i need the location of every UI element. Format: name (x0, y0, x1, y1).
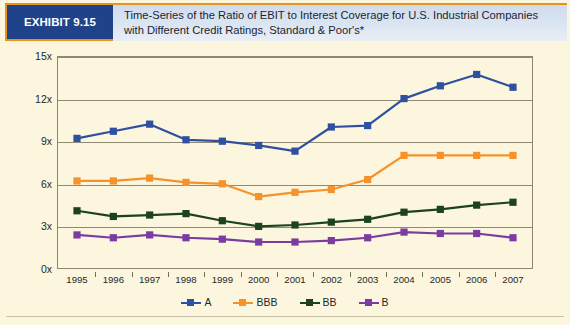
data-point-B-2006 (473, 230, 480, 237)
data-point-A-1995 (73, 135, 80, 142)
data-point-BBB-2006 (473, 152, 480, 159)
exhibit-title-line-1: Time-Series of the Ratio of EBIT to Inte… (124, 8, 559, 23)
x-tick-label-1997: 1997 (139, 274, 160, 285)
x-tick-mark (459, 272, 460, 277)
x-tick-mark (495, 272, 496, 277)
footer-divider (6, 316, 564, 317)
x-tick-mark (95, 272, 96, 277)
data-point-BBB-2001 (291, 189, 298, 196)
data-point-A-2006 (473, 71, 480, 78)
data-point-BBB-1999 (219, 180, 226, 187)
chart-legend: ABBBBBB (0, 292, 570, 312)
data-point-BB-2003 (364, 216, 371, 223)
exhibit-number-label: EXHIBIT 9.15 (24, 16, 96, 28)
data-point-A-2003 (364, 122, 371, 129)
legend-swatch-BB-icon (300, 298, 320, 307)
chart-container: 0x3x6x9x12x15x 1995199619971998199920002… (0, 44, 570, 289)
data-point-BB-1999 (219, 217, 226, 224)
x-tick-label-1995: 1995 (66, 274, 87, 285)
legend-item-BBB[interactable]: BBB (233, 296, 277, 308)
x-tick-mark (132, 272, 133, 277)
exhibit-figure: EXHIBIT 9.15 Time-Series of the Ratio of… (0, 0, 570, 325)
data-point-A-1999 (219, 138, 226, 145)
x-tick-label-2003: 2003 (357, 274, 378, 285)
x-tick-mark (386, 272, 387, 277)
data-point-B-1999 (219, 236, 226, 243)
y-tick-label-0x: 0x (41, 263, 52, 275)
y-tick-label-3x: 3x (41, 220, 52, 232)
data-point-B-1997 (146, 231, 153, 238)
legend-swatch-A-icon (181, 298, 201, 307)
data-point-BBB-1998 (182, 179, 189, 186)
data-point-BBB-2003 (364, 176, 371, 183)
x-tick-mark (422, 272, 423, 277)
data-point-BBB-2007 (509, 152, 516, 159)
x-tick-label-2005: 2005 (430, 274, 451, 285)
data-point-B-1995 (73, 231, 80, 238)
series-B (73, 228, 516, 245)
data-point-BB-2000 (255, 223, 262, 230)
x-tick-label-2006: 2006 (466, 274, 487, 285)
exhibit-header: EXHIBIT 9.15 Time-Series of the Ratio of… (5, 3, 567, 41)
data-point-A-2007 (509, 84, 516, 91)
x-tick-mark (168, 272, 169, 277)
data-point-BB-2007 (509, 199, 516, 206)
series-A (73, 71, 516, 155)
data-point-B-2001 (291, 238, 298, 245)
x-axis: 1995199619971998199920002001200220032004… (57, 272, 533, 290)
exhibit-title-line-2: with Different Credit Ratings, Standard … (124, 23, 559, 38)
exhibit-title-band: Time-Series of the Ratio of EBIT to Inte… (113, 3, 567, 41)
data-point-BBB-2005 (437, 152, 444, 159)
data-point-BB-2002 (328, 219, 335, 226)
chart-series-layer (57, 56, 533, 269)
data-point-B-2003 (364, 234, 371, 241)
data-point-BBB-1997 (146, 175, 153, 182)
data-point-A-1998 (182, 136, 189, 143)
data-point-A-2004 (400, 95, 407, 102)
x-tick-label-2002: 2002 (321, 274, 342, 285)
y-tick-label-6x: 6x (41, 178, 52, 190)
x-tick-label-2000: 2000 (248, 274, 269, 285)
data-point-BB-1996 (110, 213, 117, 220)
legend-item-BB[interactable]: BB (300, 296, 337, 308)
data-point-BBB-2000 (255, 193, 262, 200)
data-point-BBB-2002 (328, 186, 335, 193)
x-tick-label-2004: 2004 (393, 274, 414, 285)
data-point-B-2007 (509, 234, 516, 241)
data-point-BB-2005 (437, 206, 444, 213)
y-axis: 0x3x6x9x12x15x (0, 56, 57, 269)
legend-item-A[interactable]: A (181, 296, 211, 308)
x-tick-label-2007: 2007 (502, 274, 523, 285)
exhibit-number-badge: EXHIBIT 9.15 (5, 3, 113, 41)
legend-item-B[interactable]: B (359, 296, 389, 308)
data-point-B-2004 (400, 228, 407, 235)
x-tick-mark (350, 272, 351, 277)
legend-label-A: A (204, 296, 211, 308)
data-point-BB-2006 (473, 202, 480, 209)
data-point-BB-1995 (73, 207, 80, 214)
data-point-B-2000 (255, 238, 262, 245)
data-point-BB-1997 (146, 211, 153, 218)
data-point-BBB-1995 (73, 177, 80, 184)
data-point-BBB-2004 (400, 152, 407, 159)
legend-label-B: B (382, 296, 389, 308)
series-line-A (77, 74, 513, 151)
y-tick-label-9x: 9x (41, 135, 52, 147)
x-tick-mark (241, 272, 242, 277)
data-point-B-1996 (110, 234, 117, 241)
data-point-A-2001 (291, 148, 298, 155)
series-BB (73, 199, 516, 230)
series-BBB (73, 152, 516, 200)
data-point-B-2005 (437, 230, 444, 237)
y-tick-label-15x: 15x (35, 50, 52, 62)
x-tick-mark (313, 272, 314, 277)
data-point-A-2005 (437, 82, 444, 89)
data-point-A-1996 (110, 128, 117, 135)
y-tick-label-12x: 12x (35, 93, 52, 105)
data-point-BB-1998 (182, 210, 189, 217)
x-tick-label-1996: 1996 (103, 274, 124, 285)
legend-label-BB: BB (323, 296, 337, 308)
data-point-A-2002 (328, 123, 335, 130)
data-point-BB-2001 (291, 221, 298, 228)
legend-swatch-BBB-icon (233, 298, 253, 307)
